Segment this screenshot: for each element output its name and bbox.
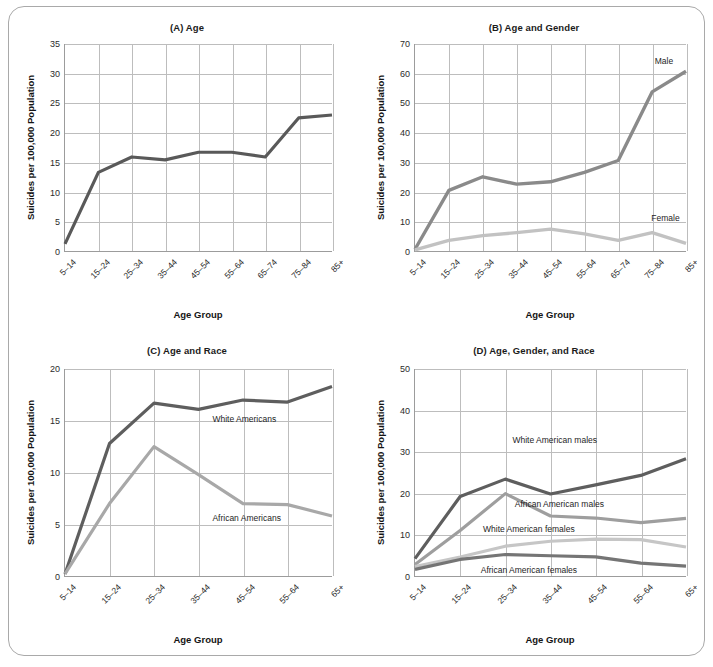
panel-b-age-gender: (B) Age and Gender0102030405060705–1415–… [366, 22, 702, 322]
x-tick-label: 35–44 [188, 582, 212, 606]
panel-a-age: (A) Age051015202530355–1415–2425–3435–44… [22, 22, 352, 322]
plot-frame: 051015205–1415–2425–3435–4445–5455–6465+… [64, 369, 332, 577]
panel-d-ylabel: Suicides per 100,000 Population [375, 393, 386, 553]
x-tick-label: 85+ [683, 257, 700, 274]
x-tick-label: 15–24 [438, 257, 462, 281]
y-tick-label: 10 [400, 530, 410, 540]
x-tick-label: 25–34 [495, 582, 519, 606]
figure-root: (A) Age051015202530355–1415–2425–3435–44… [0, 0, 713, 667]
series-label: African American females [481, 565, 577, 575]
series-layer [415, 44, 686, 251]
x-tick-label: 25–34 [144, 582, 168, 606]
panel-c-title: (C) Age and Race [22, 345, 352, 356]
plot-frame: 010203040505–1415–2425–3435–4445–5455–64… [414, 369, 686, 577]
y-tick-label: 20 [400, 489, 410, 499]
y-tick-label: 10 [50, 188, 60, 198]
panel-d-plot-area: 010203040505–1415–2425–3435–4445–5455–64… [414, 369, 686, 577]
x-tick-label: 55–64 [222, 257, 246, 281]
series-layer [415, 369, 686, 576]
y-tick-label: 0 [55, 247, 60, 257]
y-tick-label: 25 [50, 98, 60, 108]
panel-a-title: (A) Age [22, 22, 352, 33]
gridline-vertical [687, 44, 688, 251]
y-tick-label: 60 [400, 69, 410, 79]
x-tick-label: 45–54 [586, 582, 610, 606]
gridline-vertical [333, 369, 334, 576]
x-tick-label: 15–24 [450, 582, 474, 606]
gridline-vertical [687, 369, 688, 576]
x-tick-label: 65+ [329, 582, 346, 599]
panel-a-ylabel: Suicides per 100,000 Population [25, 68, 36, 228]
panel-d-age-gender-race: (D) Age, Gender, and Race010203040505–14… [366, 345, 702, 650]
gridline-vertical [333, 44, 334, 251]
series-line [415, 229, 686, 250]
y-tick-label: 40 [400, 128, 410, 138]
x-tick-label: 35–44 [506, 257, 530, 281]
panel-b-ylabel: Suicides per 100,000 Population [375, 68, 386, 228]
x-tick-label: 45–54 [233, 582, 257, 606]
series-label: White Americans [212, 414, 276, 424]
x-tick-label: 25–34 [472, 257, 496, 281]
x-tick-label: 45–54 [540, 257, 564, 281]
series-layer [65, 369, 332, 576]
y-tick-label: 0 [55, 572, 60, 582]
x-tick-label: 5–14 [408, 582, 428, 602]
series-label: African American males [515, 499, 604, 509]
panel-a-xlabel: Age Group [64, 309, 332, 320]
y-tick-label: 30 [400, 158, 410, 168]
y-tick-label: 30 [50, 69, 60, 79]
series-line [65, 447, 332, 574]
panel-b-title: (B) Age and Gender [366, 22, 702, 33]
y-tick-label: 10 [50, 468, 60, 478]
x-tick-label: 15–24 [88, 257, 112, 281]
panel-c-plot-area: 051015205–1415–2425–3435–4445–5455–6465+… [64, 369, 332, 577]
x-tick-label: 55–64 [574, 257, 598, 281]
y-tick-label: 10 [400, 217, 410, 227]
y-tick-label: 50 [400, 364, 410, 374]
y-tick-label: 20 [400, 188, 410, 198]
x-tick-label: 5–14 [58, 582, 78, 602]
plot-frame: 0102030405060705–1415–2425–3435–4445–545… [414, 44, 686, 252]
panel-d-title: (D) Age, Gender, and Race [366, 345, 702, 356]
x-tick-label: 75–84 [289, 257, 313, 281]
panel-a-plot-area: 051015202530355–1415–2425–3435–4445–5455… [64, 44, 332, 252]
x-tick-label: 65+ [683, 582, 700, 599]
y-tick-label: 30 [400, 447, 410, 457]
plot-frame: 051015202530355–1415–2425–3435–4445–5455… [64, 44, 332, 252]
series-label: White American males [512, 435, 597, 445]
series-line [415, 71, 686, 249]
x-tick-label: 35–44 [155, 257, 179, 281]
y-tick-label: 15 [50, 158, 60, 168]
x-tick-label: 45–54 [188, 257, 212, 281]
y-tick-label: 70 [400, 39, 410, 49]
series-label: White American females [483, 524, 575, 534]
x-tick-label: 55–64 [631, 582, 655, 606]
y-tick-label: 40 [400, 406, 410, 416]
y-tick-label: 20 [50, 128, 60, 138]
x-tick-label: 35–44 [540, 582, 564, 606]
series-label: Male [655, 56, 673, 66]
y-tick-label: 50 [400, 98, 410, 108]
x-tick-label: 75–84 [642, 257, 666, 281]
y-tick-label: 5 [55, 520, 60, 530]
panel-c-xlabel: Age Group [64, 634, 332, 645]
series-line [65, 387, 332, 574]
y-tick-label: 0 [405, 572, 410, 582]
series-label: African Americans [212, 513, 281, 523]
series-label: Female [651, 213, 679, 223]
panel-b-plot-area: 0102030405060705–1415–2425–3435–4445–545… [414, 44, 686, 252]
y-tick-label: 15 [50, 416, 60, 426]
panel-c-ylabel: Suicides per 100,000 Population [25, 393, 36, 553]
x-tick-label: 25–34 [121, 257, 145, 281]
series-layer [65, 44, 332, 251]
x-tick-label: 65–74 [255, 257, 279, 281]
x-tick-label: 85+ [329, 257, 346, 274]
series-line [65, 115, 332, 244]
x-tick-label: 55–64 [278, 582, 302, 606]
panel-c-age-race: (C) Age and Race051015205–1415–2425–3435… [22, 345, 352, 650]
panel-d-xlabel: Age Group [414, 634, 686, 645]
x-tick-label: 5–14 [58, 257, 78, 277]
y-tick-label: 0 [405, 247, 410, 257]
y-tick-label: 35 [50, 39, 60, 49]
x-tick-label: 5–14 [408, 257, 428, 277]
